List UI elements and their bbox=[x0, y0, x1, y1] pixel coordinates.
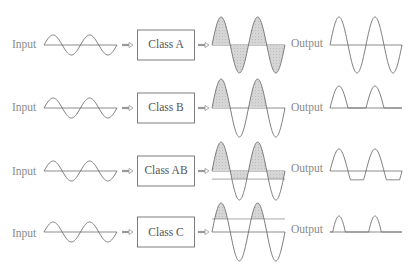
output-waveform-class-b bbox=[330, 86, 402, 108]
arrow-from-amp-class-a-head bbox=[205, 42, 209, 47]
arrow-from-amp-class-b-head bbox=[205, 105, 209, 110]
waveform-canvas bbox=[0, 0, 416, 277]
output-waveform-class-ab bbox=[330, 149, 402, 180]
conduction-shading-class-c bbox=[212, 203, 285, 219]
input-label-class-a: Input bbox=[12, 39, 36, 51]
amplifier-box-label-class-b: Class B bbox=[137, 102, 195, 114]
input-label-class-c: Input bbox=[12, 228, 36, 240]
conduction-shading-class-ab bbox=[212, 142, 285, 179]
output-label-class-c: Output bbox=[291, 224, 323, 236]
arrow-to-amp-class-ab-head bbox=[129, 168, 133, 173]
input-label-class-b: Input bbox=[12, 102, 36, 114]
amplifier-classes-diagram: Input Class A Output Input Class B Outpu… bbox=[0, 0, 416, 277]
arrow-to-amp-class-a-head bbox=[129, 42, 133, 47]
arrow-from-amp-class-ab-head bbox=[205, 168, 209, 173]
amplifier-box-label-class-a: Class A bbox=[137, 39, 195, 51]
input-label-class-ab: Input bbox=[12, 166, 36, 178]
conduction-shading-class-b bbox=[212, 79, 285, 108]
arrow-from-amp-class-c-head bbox=[205, 229, 209, 234]
arrow-to-amp-class-b-head bbox=[129, 105, 133, 110]
output-label-class-ab: Output bbox=[291, 163, 323, 175]
amplifier-box-label-class-c: Class C bbox=[137, 227, 195, 239]
arrow-to-amp-class-c-head bbox=[129, 229, 133, 234]
output-label-class-a: Output bbox=[291, 38, 323, 50]
output-waveform-class-c bbox=[330, 216, 402, 232]
output-label-class-b: Output bbox=[291, 102, 323, 114]
amplifier-box-label-class-ab: Class AB bbox=[137, 165, 195, 177]
